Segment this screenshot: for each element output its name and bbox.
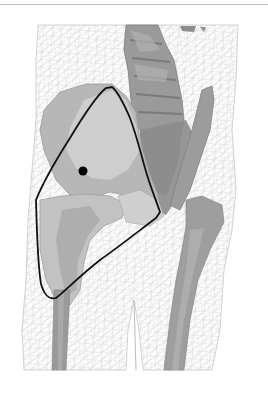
anatomy-figure — [0, 0, 268, 393]
marker-dot — [79, 167, 88, 176]
